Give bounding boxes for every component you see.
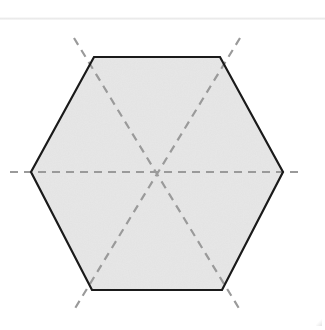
hexagon-symmetry-figure: Regular hexagon with lines of symmetry [0, 0, 325, 330]
hexagon-diagram-canvas: Regular hexagon with lines of symmetry [0, 0, 325, 330]
